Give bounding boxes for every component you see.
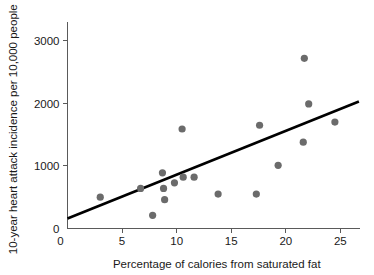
x-axis-title: Percentage of calories from saturated fa… <box>113 258 322 270</box>
x-tick-label: 15 <box>225 235 238 247</box>
x-tick-label: 20 <box>279 235 292 247</box>
data-point <box>331 119 338 126</box>
x-tick-label: 25 <box>334 235 347 247</box>
data-point <box>171 179 178 186</box>
data-point <box>149 212 156 219</box>
data-point <box>161 196 168 203</box>
data-point <box>191 174 198 181</box>
data-point <box>180 174 187 181</box>
data-point <box>253 190 260 197</box>
data-point <box>159 169 166 176</box>
data-point <box>137 185 144 192</box>
data-point <box>160 185 167 192</box>
data-point <box>305 100 312 107</box>
data-point <box>275 162 282 169</box>
data-point <box>215 190 222 197</box>
data-point <box>300 139 307 146</box>
data-point <box>301 55 308 62</box>
chart-canvas: 01000200030000510152025Percentage of cal… <box>0 0 374 275</box>
y-tick-label: 1000 <box>34 160 60 172</box>
y-tick-label: 3000 <box>34 35 60 47</box>
trend-line <box>68 101 359 218</box>
scatter-plot-figure: 01000200030000510152025Percentage of cal… <box>0 0 374 275</box>
x-tick-label: 0 <box>57 235 63 247</box>
data-point <box>178 125 185 132</box>
data-point <box>97 194 104 201</box>
data-point <box>256 122 263 129</box>
x-tick-label: 10 <box>170 235 183 247</box>
x-tick-label: 5 <box>119 235 125 247</box>
y-tick-label: 0 <box>53 223 59 235</box>
y-tick-label: 2000 <box>34 98 60 110</box>
y-axis-title: 10-year heart attack incidence per 10,00… <box>7 4 19 254</box>
